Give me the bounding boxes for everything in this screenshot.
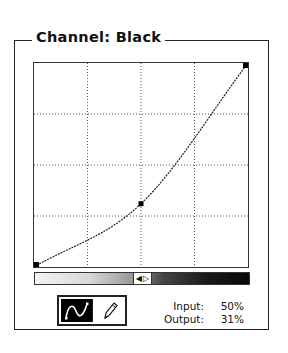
curve-readout: Input: 50% Output: 31%: [150, 300, 244, 326]
curve-tool-group: [57, 295, 127, 326]
input-readout: Input: 50%: [150, 300, 244, 313]
curve-graph[interactable]: [33, 62, 249, 268]
grid-lines: [34, 63, 248, 267]
output-value: 31%: [204, 313, 244, 326]
curve-tool-button[interactable]: [61, 299, 92, 322]
output-readout: Output: 31%: [150, 313, 244, 326]
gradient-toggle-button[interactable]: ◀▷: [133, 273, 152, 284]
channel-title: Channel: Black: [32, 29, 165, 45]
input-label: Input:: [150, 300, 204, 313]
curve-points-icon: [61, 299, 93, 322]
curve-control-point[interactable]: [34, 262, 39, 267]
pencil-icon: [93, 299, 125, 322]
curve-plot[interactable]: [34, 63, 248, 267]
right-arrow-icon: ▷: [143, 273, 149, 284]
input-value: 50%: [204, 300, 244, 313]
output-label: Output:: [150, 313, 204, 326]
curve-control-point[interactable]: [139, 201, 144, 206]
left-arrow-icon: ◀: [136, 273, 142, 284]
pencil-tool-button[interactable]: [92, 299, 123, 322]
curve-control-point[interactable]: [243, 63, 248, 68]
